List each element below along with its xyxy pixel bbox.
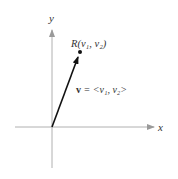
vector-v-components: = <v₁, v₂> — [81, 84, 127, 95]
vector-diagram: x y R(v₁, v₂) v = <v₁, v₂> — [0, 0, 178, 179]
point-r-label: R(v₁, v₂) — [70, 38, 107, 50]
vector-v-arrow — [52, 57, 78, 127]
x-axis-label: x — [157, 121, 163, 133]
vector-v-label: v = <v₁, v₂> — [76, 84, 127, 95]
point-r — [78, 50, 82, 54]
y-axis-label: y — [48, 12, 54, 24]
